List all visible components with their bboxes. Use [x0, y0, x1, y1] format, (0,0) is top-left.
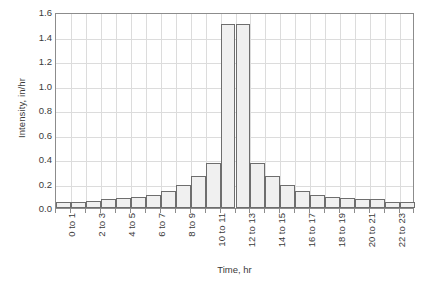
bar [86, 201, 101, 208]
bar-series [56, 14, 413, 208]
x-tick-label: 8 to 9 [187, 213, 197, 259]
y-tick-label: 1.4 [39, 33, 52, 43]
bar [280, 185, 295, 208]
bar [355, 199, 370, 208]
bar [161, 191, 176, 208]
bar [325, 197, 340, 208]
bar [385, 202, 400, 208]
bar [221, 24, 236, 208]
hyetograph-chart: Intensity, in/hr 1.61.41.21.00.80.60.40.… [0, 0, 427, 286]
bar [400, 202, 415, 208]
x-tick-label: 10 to 11 [217, 213, 227, 259]
x-axis-title: Time, hr [55, 264, 414, 275]
bar [116, 198, 131, 208]
x-tick-label: 20 to 21 [367, 213, 377, 259]
y-tick-label: 0.8 [39, 106, 52, 116]
y-tick-label: 0.4 [39, 155, 52, 165]
x-tick-label: 4 to 5 [127, 213, 137, 259]
y-tick-label: 0.6 [39, 131, 52, 141]
bar [236, 24, 251, 208]
x-tick-label: 16 to 17 [307, 213, 317, 259]
bar [101, 199, 116, 208]
y-tick-label: 0.2 [39, 180, 52, 190]
bar [370, 199, 385, 208]
bar [310, 195, 325, 208]
y-axis-tick-labels: 1.61.41.21.00.80.60.40.20.0 [26, 13, 52, 209]
bar [146, 195, 161, 208]
bar [206, 163, 221, 208]
x-tick-label: 14 to 15 [277, 213, 287, 259]
bar [265, 176, 280, 208]
bar [176, 185, 191, 208]
plot-area [55, 13, 414, 209]
bar [56, 202, 71, 208]
x-tick-label: 6 to 7 [157, 213, 167, 259]
x-tick-label: 12 to 13 [247, 213, 257, 259]
bar [71, 202, 86, 208]
x-tick-label: 0 to 1 [67, 213, 77, 259]
x-axis-tick-labels: 0 to 12 to 34 to 56 to 78 to 910 to 1112… [55, 213, 414, 259]
x-tick-label: 18 to 19 [337, 213, 347, 259]
bar [131, 197, 146, 208]
y-tick-label: 1.0 [39, 82, 52, 92]
y-tick-label: 0.0 [39, 204, 52, 214]
bar [250, 163, 265, 208]
y-tick-label: 1.2 [39, 57, 52, 67]
bar [191, 176, 206, 208]
y-tick-label: 1.6 [39, 8, 52, 18]
bar [340, 198, 355, 208]
x-tick-label: 22 to 23 [397, 213, 407, 259]
x-tick-label: 2 to 3 [97, 213, 107, 259]
bar [295, 191, 310, 208]
